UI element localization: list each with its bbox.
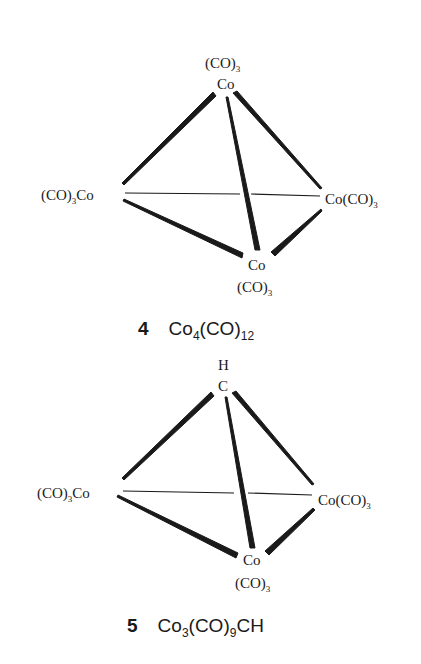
right-atom-label: Co(CO)3 <box>325 191 378 210</box>
structure-5: H C (CO)3Co Co(CO)3 Co (CO)3 5Co3(CO)9CH <box>37 357 371 640</box>
bonds-4 <box>122 91 322 258</box>
bonds-5 <box>117 391 315 558</box>
structure-4: (CO)3 Co (CO)3Co Co(CO)3 Co (CO)3 4Co4(C… <box>41 55 378 343</box>
bond-top-bottom <box>225 397 255 548</box>
bond-left-right-b <box>248 493 312 495</box>
apex-atom-label: C <box>218 378 228 394</box>
bond-left-bottom <box>123 199 243 258</box>
bottom-atom-label: Co <box>243 552 261 568</box>
bond-top-left <box>122 92 216 185</box>
caption-4: 4Co4(CO)12 <box>138 318 254 343</box>
bond-left-bottom <box>117 495 238 558</box>
bond-left-right-b <box>251 194 320 196</box>
apex-ligand-label: (CO)3 <box>205 55 241 74</box>
bond-right-bottom <box>271 209 322 256</box>
bond-right-bottom <box>265 508 315 555</box>
apex-atom-label: Co <box>217 76 235 92</box>
cluster-diagrams: (CO)3 Co (CO)3Co Co(CO)3 Co (CO)3 4Co4(C… <box>0 0 421 664</box>
caption-5: 5Co3(CO)9CH <box>127 615 264 640</box>
left-atom-label: (CO)3Co <box>41 187 94 206</box>
bond-left-right-a <box>123 491 234 493</box>
right-atom-label: Co(CO)3 <box>318 492 371 511</box>
left-atom-label: (CO)3Co <box>37 485 90 504</box>
bottom-atom-label: Co <box>248 257 266 273</box>
bond-top-right <box>232 391 314 485</box>
bond-top-right <box>233 91 322 189</box>
bottom-ligand-label: (CO)3 <box>237 279 273 298</box>
bottom-ligand-label: (CO)3 <box>235 575 271 594</box>
bond-left-right-a <box>125 193 240 194</box>
bond-top-left <box>122 392 214 480</box>
bond-top-bottom <box>226 97 260 250</box>
apex-h-label: H <box>218 357 229 373</box>
